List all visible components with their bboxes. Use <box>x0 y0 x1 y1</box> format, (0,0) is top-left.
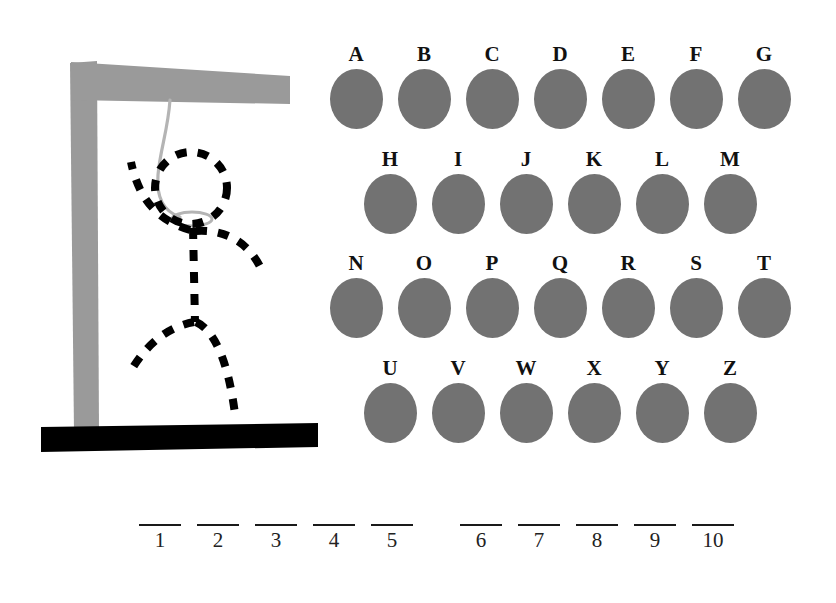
letter-label: E <box>621 44 635 66</box>
letter-label: F <box>690 44 703 66</box>
answer-word-right: 6 7 8 9 10 <box>452 512 742 551</box>
letter-blob[interactable] <box>704 174 757 234</box>
answer-word-left: 1 2 3 4 5 <box>131 512 421 551</box>
letter-label: P <box>486 253 499 275</box>
letter-label: I <box>454 149 462 171</box>
figure-right-leg <box>196 322 235 414</box>
answer-blank-number: 1 <box>155 529 166 551</box>
answer-blank-5[interactable]: 5 <box>363 512 421 551</box>
letter-key-k[interactable]: K <box>560 149 628 249</box>
answer-blank-number: 9 <box>650 529 661 551</box>
gallows-panel <box>0 0 330 470</box>
answer-blank-3[interactable]: 3 <box>247 512 305 551</box>
letter-key-c[interactable]: C <box>458 44 526 144</box>
letter-label: C <box>484 44 499 66</box>
letter-key-s[interactable]: S <box>662 253 730 353</box>
letter-blob[interactable] <box>602 69 655 129</box>
letter-blob[interactable] <box>602 278 655 338</box>
letter-key-l[interactable]: L <box>628 149 696 249</box>
letter-blob[interactable] <box>534 278 587 338</box>
figure-torso <box>193 228 195 322</box>
letter-key-z[interactable]: Z <box>696 358 764 458</box>
letter-label: J <box>521 149 532 171</box>
letter-blob[interactable] <box>330 69 383 129</box>
letter-key-y[interactable]: Y <box>628 358 696 458</box>
letter-label: Z <box>723 358 737 380</box>
letter-key-p[interactable]: P <box>458 253 526 353</box>
letter-key-q[interactable]: Q <box>526 253 594 353</box>
letter-blob[interactable] <box>534 69 587 129</box>
answer-blank-line <box>371 524 413 526</box>
letter-label: K <box>586 149 602 171</box>
letter-blob[interactable] <box>636 383 689 443</box>
answer-blank-9[interactable]: 9 <box>626 512 684 551</box>
letter-blob[interactable] <box>466 278 519 338</box>
letter-blob[interactable] <box>398 69 451 129</box>
letter-key-e[interactable]: E <box>594 44 662 144</box>
answer-blank-number: 10 <box>703 529 724 551</box>
letter-blob[interactable] <box>568 174 621 234</box>
letter-key-h[interactable]: H <box>356 149 424 249</box>
letter-row: U V W X Y Z <box>356 358 764 458</box>
letter-blob[interactable] <box>364 383 417 443</box>
letter-blob[interactable] <box>670 69 723 129</box>
letter-key-j[interactable]: J <box>492 149 560 249</box>
letter-label: A <box>348 44 363 66</box>
answer-blank-line <box>460 524 502 526</box>
letter-blob[interactable] <box>500 383 553 443</box>
letter-blob[interactable] <box>364 174 417 234</box>
letter-blob[interactable] <box>432 383 485 443</box>
letter-key-x[interactable]: X <box>560 358 628 458</box>
answer-blank-line <box>313 524 355 526</box>
letter-blob[interactable] <box>432 174 485 234</box>
letter-key-i[interactable]: I <box>424 149 492 249</box>
letter-key-o[interactable]: O <box>390 253 458 353</box>
letter-key-a[interactable]: A <box>322 44 390 144</box>
letter-label: V <box>450 358 465 380</box>
letter-blob[interactable] <box>636 174 689 234</box>
answer-blank-line <box>518 524 560 526</box>
figure-left-leg <box>129 322 194 374</box>
answer-blank-number: 8 <box>592 529 603 551</box>
letter-key-r[interactable]: R <box>594 253 662 353</box>
letter-key-n[interactable]: N <box>322 253 390 353</box>
letter-blob[interactable] <box>738 69 791 129</box>
answer-blank-line <box>255 524 297 526</box>
letter-key-d[interactable]: D <box>526 44 594 144</box>
letter-key-f[interactable]: F <box>662 44 730 144</box>
letter-blob[interactable] <box>704 383 757 443</box>
letter-board: A B C D E F G <box>322 44 822 474</box>
answer-blank-1[interactable]: 1 <box>131 512 189 551</box>
letter-row: H I J K L M <box>356 149 764 249</box>
letter-blob[interactable] <box>500 174 553 234</box>
letter-label: B <box>417 44 431 66</box>
letter-key-v[interactable]: V <box>424 358 492 458</box>
answer-blank-7[interactable]: 7 <box>510 512 568 551</box>
letter-label: M <box>720 149 740 171</box>
answer-blank-6[interactable]: 6 <box>452 512 510 551</box>
letter-blob[interactable] <box>568 383 621 443</box>
letter-key-t[interactable]: T <box>730 253 798 353</box>
letter-key-g[interactable]: G <box>730 44 798 144</box>
letter-key-w[interactable]: W <box>492 358 560 458</box>
answer-blank-8[interactable]: 8 <box>568 512 626 551</box>
letter-label: R <box>620 253 635 275</box>
answer-blank-number: 4 <box>329 529 340 551</box>
letter-blob[interactable] <box>466 69 519 129</box>
letter-key-b[interactable]: B <box>390 44 458 144</box>
answer-blank-2[interactable]: 2 <box>189 512 247 551</box>
answer-blank-4[interactable]: 4 <box>305 512 363 551</box>
answer-blank-10[interactable]: 10 <box>684 512 742 551</box>
letter-key-m[interactable]: M <box>696 149 764 249</box>
letter-label: S <box>690 253 702 275</box>
hangman-game-canvas: A B C D E F G <box>0 0 836 603</box>
letter-label: X <box>586 358 601 380</box>
letter-blob[interactable] <box>738 278 791 338</box>
answer-blank-number: 6 <box>476 529 487 551</box>
letter-blob[interactable] <box>398 278 451 338</box>
letter-key-u[interactable]: U <box>356 358 424 458</box>
letter-label: T <box>757 253 771 275</box>
letter-blob[interactable] <box>330 278 383 338</box>
letter-label: L <box>655 149 669 171</box>
letter-blob[interactable] <box>670 278 723 338</box>
